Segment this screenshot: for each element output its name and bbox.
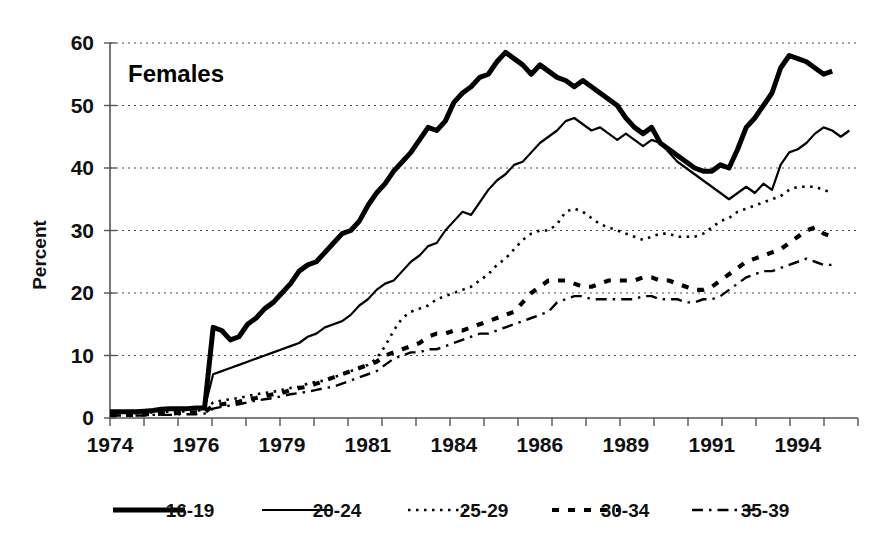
x-tick-label: 1991 — [688, 433, 735, 456]
x-tick-label: 1981 — [345, 433, 392, 456]
legend-label-30-34: 30-34 — [601, 500, 650, 521]
x-tick-label: 1974 — [87, 433, 134, 456]
chart-figure: 0102030405060 19741976197919811984198619… — [0, 0, 875, 551]
y-tick-label: 0 — [82, 406, 94, 429]
x-tick-label: 1984 — [431, 433, 478, 456]
x-tick-label: 1994 — [774, 433, 821, 456]
legend-label-35-39: 35-39 — [741, 500, 790, 521]
y-tick-label: 10 — [71, 344, 94, 367]
x-tick-label: 1989 — [603, 433, 650, 456]
y-tick-label: 50 — [71, 94, 94, 117]
x-tick-label: 1976 — [173, 433, 220, 456]
females-labor-force-line-chart: 0102030405060 19741976197919811984198619… — [0, 0, 875, 551]
x-tick-label: 1986 — [517, 433, 564, 456]
x-axis-tick-labels: 197419761979198119841986198919911994 — [87, 433, 822, 456]
y-tick-label: 20 — [71, 281, 94, 304]
panel-title: Females — [128, 60, 224, 87]
legend-label-25-29: 25-29 — [460, 500, 509, 521]
y-tick-label: 60 — [71, 31, 94, 54]
y-tick-label: 40 — [71, 156, 94, 179]
x-tick-label: 1979 — [259, 433, 306, 456]
legend-label-16-19: 16-19 — [166, 500, 215, 521]
legend-label-20-24: 20-24 — [313, 500, 362, 521]
y-axis-title: Percent — [29, 219, 50, 289]
y-tick-label: 30 — [71, 219, 94, 242]
